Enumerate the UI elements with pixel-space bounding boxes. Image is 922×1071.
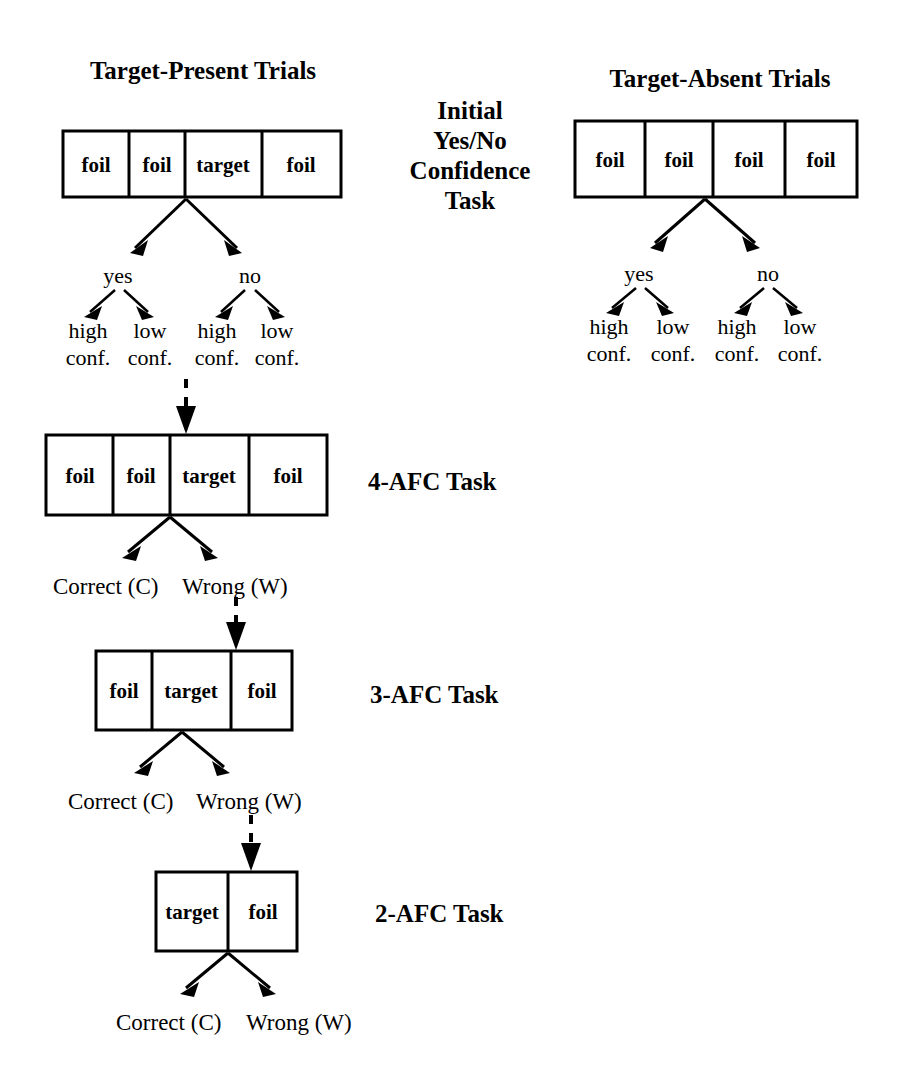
connector-3afc-to-2afc: [241, 815, 261, 871]
array-3afc: foil target foil: [96, 651, 292, 730]
afc3-outcome-wrong: Wrong (W): [196, 789, 302, 814]
array-absent-initial-cell-3: foil: [806, 148, 835, 172]
stage-label-initial-line-3: Confidence: [410, 157, 531, 184]
array-present-initial-cell-1: foil: [142, 153, 171, 177]
afc4-outcome-wrong: Wrong (W): [182, 574, 288, 599]
array-3afc-cell-1: target: [164, 679, 218, 703]
absent-confidence-leaves: high conf. low conf. high conf. low conf…: [587, 314, 823, 366]
array-present-initial-cell-2: target: [196, 153, 250, 177]
present-leaf-3-line-1: low: [261, 318, 294, 343]
connector-initial-to-4afc-arrowhead: [176, 406, 196, 434]
flowchart-diagram: Target-Present Trials Target-Absent Tria…: [0, 0, 922, 1071]
absent-leaf-2-line-2: conf.: [715, 341, 760, 366]
array-4afc-cell-0: foil: [65, 464, 94, 488]
present-arrow-to-yes: [135, 199, 186, 248]
afc4-outcome-correct: Correct (C): [53, 574, 158, 599]
afc3-arrow-wrong: [182, 732, 224, 767]
absent-response-no: no: [757, 261, 779, 286]
afc4-outcome-arrows: [122, 517, 218, 561]
array-4afc: foil foil target foil: [46, 435, 327, 515]
stage-label-initial-line-2: Yes/No: [433, 127, 507, 154]
absent-leaf-0-line-2: conf.: [587, 341, 632, 366]
absent-leaf-3-line-1: low: [784, 314, 817, 339]
figure-canvas: Target-Present Trials Target-Absent Tria…: [0, 0, 922, 1071]
present-yes-arrow-low: [124, 290, 148, 312]
absent-no-confidence-arrows: [734, 288, 803, 316]
present-yesno-arrows: [130, 199, 242, 256]
afc3-arrow-correct: [140, 732, 182, 767]
connector-4afc-to-3afc: [226, 597, 246, 650]
array-present-initial: foil foil target foil: [63, 131, 341, 197]
array-absent-initial: foil foil foil foil: [575, 121, 857, 197]
present-leaf-1-line-2: conf.: [128, 345, 173, 370]
afc4-arrow-wrong: [170, 517, 212, 552]
absent-no-arrow-low: [773, 288, 797, 308]
absent-arrow-to-yes: [655, 199, 705, 243]
array-absent-initial-cell-0: foil: [595, 148, 624, 172]
present-no-confidence-arrows: [215, 290, 285, 320]
afc2-arrow-wrong: [228, 953, 270, 988]
absent-response-yes: yes: [624, 261, 653, 286]
connector-3afc-to-2afc-arrowhead: [241, 843, 261, 871]
present-leaf-2-line-2: conf.: [195, 345, 240, 370]
column-title-target-present: Target-Present Trials: [90, 57, 316, 84]
absent-yes-confidence-arrows: [606, 288, 674, 316]
stage-label-initial-line-1: Initial: [437, 97, 502, 124]
connector-4afc-to-3afc-arrowhead: [226, 622, 246, 650]
present-confidence-leaves: high conf. low conf. high conf. low conf…: [66, 318, 300, 370]
present-leaf-3-line-2: conf.: [255, 345, 300, 370]
array-2afc-cell-1: foil: [248, 900, 277, 924]
present-leaf-2-line-1: high: [197, 318, 236, 343]
connector-initial-to-4afc: [176, 379, 196, 434]
afc2-arrow-correct: [186, 953, 228, 988]
afc2-outcome-correct: Correct (C): [116, 1010, 221, 1035]
array-4afc-cell-3: foil: [273, 464, 302, 488]
absent-leaf-0-line-1: high: [589, 314, 628, 339]
array-4afc-cell-2: target: [182, 464, 236, 488]
array-2afc-cell-0: target: [165, 900, 219, 924]
absent-arrow-to-no: [705, 199, 755, 243]
absent-leaf-3-line-2: conf.: [778, 341, 823, 366]
stage-label-initial: Initial Yes/No Confidence Task: [410, 97, 531, 214]
present-no-arrow-high: [221, 290, 245, 312]
present-no-arrow-low: [255, 290, 279, 312]
stage-label-initial-line-4: Task: [445, 187, 496, 214]
array-2afc: target foil: [156, 872, 297, 951]
array-3afc-cell-2: foil: [247, 679, 276, 703]
absent-leaf-1-line-2: conf.: [651, 341, 696, 366]
stage-label-4afc: 4-AFC Task: [368, 468, 497, 495]
array-4afc-cell-1: foil: [126, 464, 155, 488]
absent-no-arrow-high: [740, 288, 764, 308]
present-yes-confidence-arrows: [84, 290, 154, 320]
present-leaf-0-line-1: high: [68, 318, 107, 343]
absent-yes-arrow-low: [645, 288, 668, 308]
array-present-initial-cell-3: foil: [286, 153, 315, 177]
column-title-target-absent: Target-Absent Trials: [609, 65, 830, 92]
afc3-outcome-correct: Correct (C): [68, 789, 173, 814]
absent-yesno-arrows: [650, 199, 760, 252]
afc4-arrow-correct: [128, 517, 170, 552]
present-response-yes: yes: [103, 263, 132, 288]
afc2-outcome-arrows: [180, 953, 276, 997]
present-leaf-1-line-1: low: [134, 318, 167, 343]
absent-yes-arrow-high: [612, 288, 636, 308]
present-leaf-0-line-2: conf.: [66, 345, 111, 370]
absent-leaf-2-line-1: high: [717, 314, 756, 339]
afc3-outcome-arrows: [134, 732, 230, 776]
present-yes-arrow-high: [90, 290, 115, 312]
array-absent-initial-cell-1: foil: [664, 148, 693, 172]
array-3afc-cell-0: foil: [109, 679, 138, 703]
present-arrow-to-no: [186, 199, 237, 248]
afc2-outcome-wrong: Wrong (W): [246, 1010, 352, 1035]
absent-leaf-1-line-1: low: [657, 314, 690, 339]
array-present-initial-cell-0: foil: [81, 153, 110, 177]
present-response-no: no: [239, 263, 261, 288]
stage-label-2afc: 2-AFC Task: [375, 900, 504, 927]
array-absent-initial-cell-2: foil: [734, 148, 763, 172]
stage-label-3afc: 3-AFC Task: [370, 681, 499, 708]
